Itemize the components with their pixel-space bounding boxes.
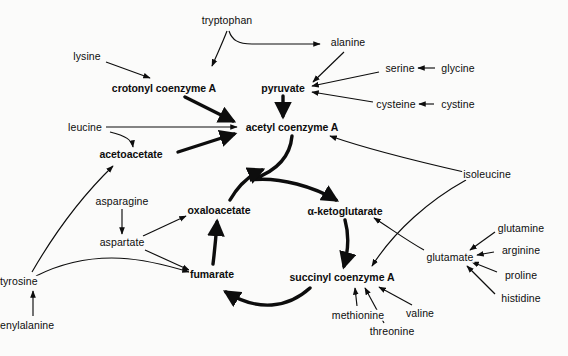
edge-cycle-oxaloacetate-acetylcoa xyxy=(230,170,262,200)
node-oxaloacetate: oxaloacetate xyxy=(186,205,251,216)
metabolic-pathway-diagram: tryptophan lysine alanine glycine serine… xyxy=(0,0,568,356)
node-fumarate: fumarate xyxy=(189,269,235,280)
edge-alanine-pyruvate xyxy=(313,52,344,82)
node-pyruvate: pyruvate xyxy=(260,83,305,94)
edge-valine-succinylcoa xyxy=(379,287,412,305)
edge-histidine-glutamate xyxy=(467,266,495,294)
edge-crotonyl-acetylcoa xyxy=(185,97,233,121)
node-acetoacetate: acetoacetate xyxy=(98,149,163,160)
edge-cycle-succinylcoa-fumarate xyxy=(226,288,310,305)
edge-leucine-acetoacetate xyxy=(110,132,133,147)
node-acetyl-coenzyme-a: acetyl coenzyme A xyxy=(245,122,340,133)
node-aspartate: aspartate xyxy=(99,237,146,248)
edge-lysine-crotonyl xyxy=(106,62,150,78)
node-glycine: glycine xyxy=(440,63,475,74)
node-tyrosine: tyrosine xyxy=(0,276,39,287)
edge-cycle-fumarate-oxaloacetate xyxy=(213,222,217,264)
node-glutamine: glutamine xyxy=(497,223,545,234)
edge-glutamate-ketoglutarate xyxy=(374,218,424,250)
node-phenylalanine: enylalanine xyxy=(0,320,55,331)
node-glutamate: glutamate xyxy=(425,252,474,263)
edge-glutamine-glutamate xyxy=(470,232,495,250)
node-arginine: arginine xyxy=(501,245,541,256)
node-leucine: leucine xyxy=(67,122,103,133)
edge-aspartate-oxaloacetate xyxy=(143,216,186,236)
edge-proline-glutamate xyxy=(472,262,497,272)
node-histidine: histidine xyxy=(500,293,541,304)
node-cysteine: cysteine xyxy=(375,99,416,110)
node-methionine: methionine xyxy=(331,310,385,321)
node-alanine: alanine xyxy=(330,37,367,48)
edge-tyrosine-fumarate xyxy=(36,258,189,276)
edge-aspartate-fumarate xyxy=(145,250,189,270)
edge-serine-pyruvate xyxy=(312,72,379,86)
edge-cycle-ketoglutarate-succinylcoa xyxy=(344,220,348,266)
node-serine: serine xyxy=(384,63,415,74)
node-proline: proline xyxy=(504,270,538,281)
edge-acetoacetate-acetylcoa xyxy=(178,134,234,152)
node-threonine: threonine xyxy=(369,326,416,337)
edge-cycle-acetylcoa-ketoglutarate xyxy=(250,136,336,200)
node-lysine: lysine xyxy=(72,51,101,62)
edge-tyrosine-acetoacetate xyxy=(32,166,113,272)
edge-cysteine-pyruvate xyxy=(312,92,373,102)
edge-arginine-glutamate xyxy=(477,252,494,255)
node-tryptophan: tryptophan xyxy=(201,15,254,26)
node-succinyl-coenzyme-a: succinyl coenzyme A xyxy=(289,272,396,283)
node-cystine: cystine xyxy=(440,99,475,110)
node-crotonyl-coenzyme-a: crotonyl coenzyme A xyxy=(111,83,217,94)
node-valine: valine xyxy=(405,308,435,319)
edge-methionine-succinylcoa xyxy=(355,288,357,306)
edge-tryptophan-alanine xyxy=(229,31,320,44)
node-alpha-ketoglutarate: α-ketoglutarate xyxy=(306,206,383,217)
node-asparagine: asparagine xyxy=(95,196,150,207)
edge-tryptophan-crotonyl xyxy=(212,31,227,66)
node-isoleucine: isoleucine xyxy=(462,169,512,180)
edge-isoleucine-acetylcoa xyxy=(330,136,464,172)
